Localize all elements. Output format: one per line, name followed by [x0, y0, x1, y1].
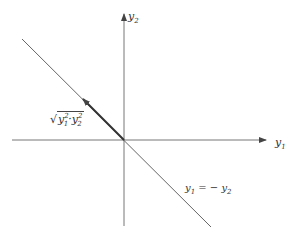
vector-magnitude-label: √y21·y22: [50, 111, 84, 128]
radicand-b-sup: 2: [78, 112, 82, 120]
vector-arrow: [83, 99, 124, 140]
diagram-canvas: [0, 0, 294, 236]
sqrt-radicand: y21·y22: [57, 111, 84, 128]
eq-sign: = −: [195, 182, 221, 193]
y2-label-sub: 2: [134, 17, 138, 25]
y1-axis-label: y1: [275, 137, 286, 151]
line-equation-label: y1 = − y2: [185, 183, 232, 196]
eq-rhs-sub: 2: [227, 188, 231, 196]
radicand-b-sub: 2: [77, 120, 81, 128]
y1-label-sub: 1: [281, 143, 285, 151]
sqrt-symbol: √: [50, 113, 57, 126]
y2-axis-label: y2: [128, 11, 139, 25]
